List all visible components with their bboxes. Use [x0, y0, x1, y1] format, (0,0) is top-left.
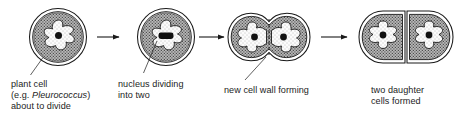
label-stage-2: nucleus dividing into two	[118, 79, 184, 101]
stage-1-cell	[30, 9, 87, 76]
label-stage-1-line-2: (e.g. Pleurococcus)	[11, 90, 90, 101]
stage-2-cell	[138, 9, 195, 74]
label-stage-4: two daughter cells formed	[371, 85, 424, 107]
stage-2-dividing-nucleus	[159, 33, 174, 39]
stage-3-cell	[228, 13, 310, 80]
stage-3-nucleus-right	[280, 34, 287, 41]
label-stage-4-line-1: two daughter	[371, 85, 424, 96]
label-stage-1-line-2-suffix: )	[87, 90, 90, 100]
label-stage-1-species-name: Pleurococcus	[32, 90, 87, 100]
stage-4-left-nucleus	[380, 32, 387, 39]
stage-1-nucleus	[55, 32, 62, 39]
stage-3-nucleus-left	[251, 34, 258, 41]
label-stage-1-line-1: plant cell	[11, 79, 90, 90]
label-stage-2-line-1: nucleus dividing	[118, 79, 184, 90]
stage-4-right-nucleus	[426, 32, 433, 39]
label-stage-3: new cell wall forming	[224, 85, 309, 96]
stage-4-daughter-cell-left	[359, 11, 405, 63]
label-stage-2-line-2: into two	[118, 90, 184, 101]
leader-line-stage-1	[31, 58, 44, 76]
label-stage-4-line-2: cells formed	[371, 96, 424, 107]
label-stage-1-line-2-prefix: (e.g.	[11, 90, 32, 100]
stage-4-cells	[359, 11, 453, 63]
label-stage-1-line-3: about to divide	[11, 101, 90, 112]
cell-division-diagram: plant cell (e.g. Pleurococcus) about to …	[0, 0, 463, 120]
label-stage-3-line-1: new cell wall forming	[224, 85, 309, 96]
stage-4-daughter-cell-right	[407, 11, 453, 63]
label-stage-1: plant cell (e.g. Pleurococcus) about to …	[11, 79, 90, 113]
